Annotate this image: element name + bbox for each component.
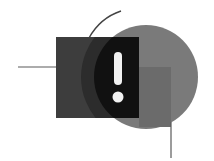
exclamation-icon: [113, 52, 124, 103]
exclamation-dot: [113, 92, 124, 103]
exclamation-bar: [114, 52, 122, 85]
curved-arc: [89, 11, 121, 38]
inner-square: [139, 67, 171, 127]
warning-illustration: [0, 0, 214, 161]
